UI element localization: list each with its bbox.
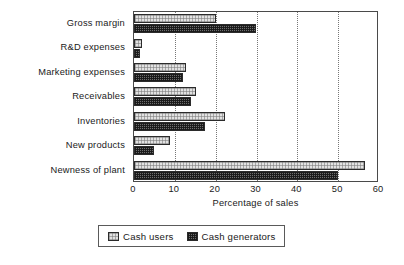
legend-entry-cash-generators: Cash generators [187,231,276,242]
x-tick-label: 20 [209,183,220,196]
category-axis-labels: Gross marginR&D expensesMarketing expens… [0,11,129,182]
category-label: R&D expenses [61,35,125,59]
bar-group [134,36,377,60]
bar-users [134,112,225,121]
x-axis-tick-labels: 0102030405060 [133,183,378,197]
x-axis-title: Percentage of sales [133,198,378,208]
bar-users [134,63,186,72]
bar-chart-figure: Gross marginR&D expensesMarketing expens… [0,0,404,265]
category-label: New products [66,133,125,157]
x-tick-label: 10 [168,183,179,196]
legend-swatch-icon-cash-users [108,232,119,241]
bar-users [134,161,365,170]
bar-group [134,12,377,36]
chart-legend: Cash users Cash generators [98,225,285,247]
bars-layer [134,12,377,181]
x-tick-label: 0 [130,183,135,196]
bar-generators [134,122,205,131]
bar-users [134,14,216,23]
bar-generators [134,146,154,155]
bar-group [134,85,377,109]
category-label: Gross margin [67,11,125,35]
bar-group [134,61,377,85]
x-tick-label: 40 [291,183,302,196]
category-label: Marketing expenses [38,60,125,84]
category-label: Inventories [77,109,125,133]
category-label: Receivables [72,84,125,108]
x-tick-label: 30 [250,183,261,196]
legend-label-cash-users: Cash users [123,231,174,242]
bar-group [134,110,377,134]
bar-group [134,159,377,183]
category-label: Newness of plant [50,158,125,182]
plot-area [133,11,378,182]
bar-users [134,39,142,48]
legend-swatch-icon-cash-generators [187,232,198,241]
bar-generators [134,24,256,33]
bar-generators [134,97,191,106]
bar-generators [134,73,183,82]
x-tick-label: 50 [332,183,343,196]
bar-group [134,134,377,158]
bar-generators [134,49,140,58]
x-tick-label: 60 [373,183,384,196]
bar-generators [134,171,338,180]
bar-users [134,136,170,145]
legend-label-cash-generators: Cash generators [202,231,276,242]
legend-entry-cash-users: Cash users [108,231,174,242]
bar-users [134,87,196,96]
